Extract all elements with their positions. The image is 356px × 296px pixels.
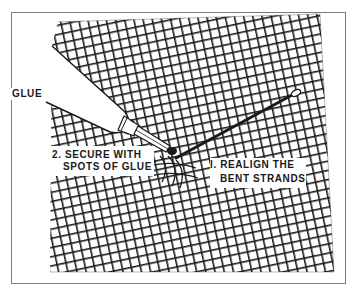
label-step2-line2: SPOTS OF GLUE <box>63 160 152 173</box>
label-step1-line1: I. REALIGN THE <box>210 158 295 171</box>
label-glue: GLUE <box>12 87 42 100</box>
screen-mesh <box>40 10 340 280</box>
diagram-figure: GLUE 2. SECURE WITH SPOTS OF GLUE I. REA… <box>0 0 356 296</box>
label-step1-line2: BENT STRANDS <box>220 172 306 185</box>
